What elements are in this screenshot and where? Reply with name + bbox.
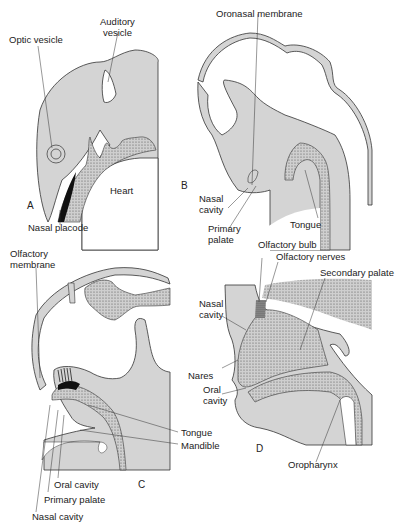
label-tongue-c: Tongue xyxy=(181,427,212,438)
label-nasal-cavity-b: Nasal cavity xyxy=(199,193,223,215)
label-oronasal-membrane: Oronasal membrane xyxy=(216,8,303,19)
label-oral-cavity-d: Oral cavity xyxy=(203,384,227,406)
label-nares: Nares xyxy=(188,370,213,381)
label-oral-cavity-c: Oral cavity xyxy=(54,479,99,490)
panel-letter-d: D xyxy=(256,443,263,454)
panel-letter-a: A xyxy=(27,200,34,211)
panel-b xyxy=(198,14,372,250)
panel-c-septum xyxy=(68,283,75,303)
label-auditory-vesicle: Auditory vesicle xyxy=(100,16,135,38)
label-olfactory-membrane: Olfactory membrane xyxy=(10,248,55,270)
label-heart: Heart xyxy=(110,185,133,196)
label-primary-palate-c: Primary palate xyxy=(44,494,105,505)
label-secondary-palate: Secondary palate xyxy=(320,267,394,278)
label-tongue-b: Tongue xyxy=(290,219,321,230)
panel-d-olfactory-dark xyxy=(255,300,266,318)
label-optic-vesicle: Optic vesicle xyxy=(9,34,63,45)
label-mandible: Mandible xyxy=(181,440,220,451)
label-olfactory-bulb: Olfactory bulb xyxy=(258,239,317,250)
panel-a xyxy=(37,32,159,250)
panel-d xyxy=(222,258,372,462)
label-oropharynx: Oropharynx xyxy=(288,459,338,470)
panel-c-cortex-stipple xyxy=(85,280,170,320)
panel-letter-b: B xyxy=(181,180,188,191)
panel-c xyxy=(32,268,178,512)
label-olfactory-nerves: Olfactory nerves xyxy=(276,251,345,262)
label-nasal-cavity-c: Nasal cavity xyxy=(32,511,83,522)
panel-letter-c: C xyxy=(138,479,145,490)
label-nasal-cavity-d: Nasal cavity xyxy=(199,298,223,320)
label-primary-palate-b: Primary palate xyxy=(208,223,241,245)
label-nasal-placode: Nasal placode xyxy=(28,222,88,233)
